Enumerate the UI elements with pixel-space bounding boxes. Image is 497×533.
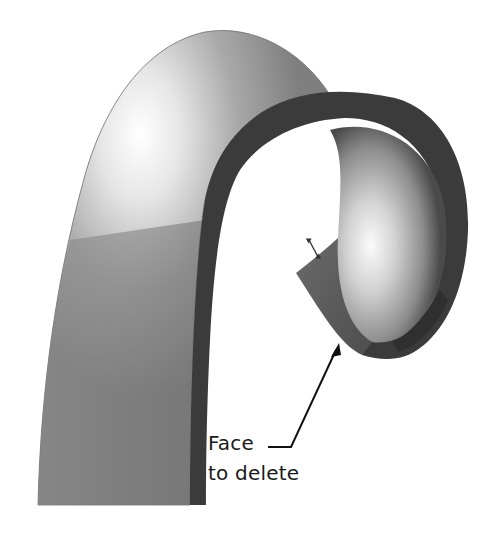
annotation-label: Face to delete — [208, 428, 299, 488]
annotation-line1: Face — [208, 428, 299, 458]
leg-shade — [38, 220, 205, 505]
direction-arrow-icon — [306, 236, 321, 261]
annotation-line2: to delete — [208, 458, 299, 488]
cad-figure: Face to delete — [0, 0, 497, 533]
